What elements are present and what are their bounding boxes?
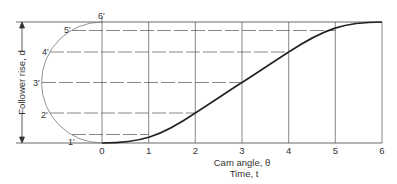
x-tick-1: 1 bbox=[146, 145, 151, 156]
y-axis-label: Follower rise, d bbox=[16, 50, 27, 114]
point-label-6: 6' bbox=[98, 11, 105, 21]
displacement-diagram: Follower rise, d 1' 2' 3' 4' 5' 6' 0 1 2… bbox=[0, 0, 397, 184]
x-tick-5: 5 bbox=[333, 145, 338, 156]
point-label-1: 1' bbox=[68, 137, 75, 147]
x-axis-label-time: Time, t bbox=[230, 168, 259, 179]
x-axis-label-angle: Cam angle, θ bbox=[214, 157, 271, 168]
point-label-4: 4' bbox=[42, 47, 49, 57]
x-tick-2: 2 bbox=[193, 145, 198, 156]
vertical-grid bbox=[102, 17, 382, 143]
point-label-5: 5' bbox=[64, 25, 71, 35]
x-tick-4: 4 bbox=[286, 145, 291, 156]
projection-lines bbox=[42, 31, 335, 135]
x-tick-6: 6 bbox=[379, 145, 384, 156]
x-tick-0: 0 bbox=[99, 145, 104, 156]
x-tick-labels: 0 1 2 3 4 5 6 bbox=[99, 145, 384, 156]
point-label-2: 2' bbox=[41, 110, 48, 120]
point-label-3: 3' bbox=[33, 78, 40, 88]
x-tick-3: 3 bbox=[239, 145, 244, 156]
